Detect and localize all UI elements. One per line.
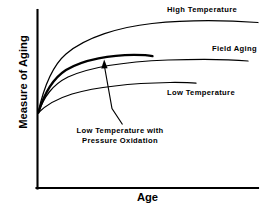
- series-label-low-temperature: Low Temperature: [167, 88, 235, 98]
- y-axis-label: Measure of Aging: [17, 23, 29, 141]
- annotation-low-temperature-pressure-oxidation: Low Temperature with Pressure Oxidation: [76, 126, 163, 145]
- annotation-line-1: Low Temperature with: [76, 126, 163, 136]
- series-label-high-temperature: High Temperature: [167, 5, 237, 15]
- annotation-leader-line: [105, 67, 123, 125]
- annotation-line-2: Pressure Oxidation: [76, 136, 163, 146]
- chart-canvas: [0, 0, 274, 210]
- series-label-field-aging: Field Aging: [212, 44, 257, 54]
- x-axis-label: Age: [37, 191, 258, 203]
- annotation-arrowhead-icon: [101, 60, 107, 69]
- aging-curves-figure: High Temperature Field Aging Low Tempera…: [0, 0, 274, 210]
